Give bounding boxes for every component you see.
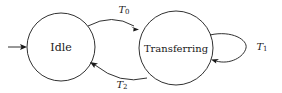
t1-edge-line[interactable] bbox=[210, 34, 246, 62]
t2-arrow-head bbox=[90, 62, 98, 68]
state-diagram-svg: Idle Transferring T0 T2 T1 bbox=[0, 0, 282, 93]
transferring-label: Transferring bbox=[144, 43, 209, 54]
t1-label: T1 bbox=[256, 41, 267, 53]
idle-label: Idle bbox=[50, 41, 71, 54]
t0-label: T0 bbox=[118, 4, 129, 16]
t0-arrow-head bbox=[131, 26, 139, 31]
entry-arrow bbox=[8, 44, 27, 50]
transition-t0[interactable]: T0 bbox=[88, 4, 139, 32]
transition-t1-self-loop[interactable]: T1 bbox=[210, 34, 268, 64]
t2-label: T2 bbox=[116, 79, 127, 91]
transition-t2[interactable]: T2 bbox=[90, 62, 147, 91]
state-diagram-canvas: Idle Transferring T0 T2 T1 bbox=[0, 0, 282, 93]
t0-edge-line[interactable] bbox=[88, 20, 134, 27]
state-node-idle[interactable]: Idle bbox=[27, 13, 95, 81]
state-node-transferring[interactable]: Transferring bbox=[139, 11, 213, 85]
